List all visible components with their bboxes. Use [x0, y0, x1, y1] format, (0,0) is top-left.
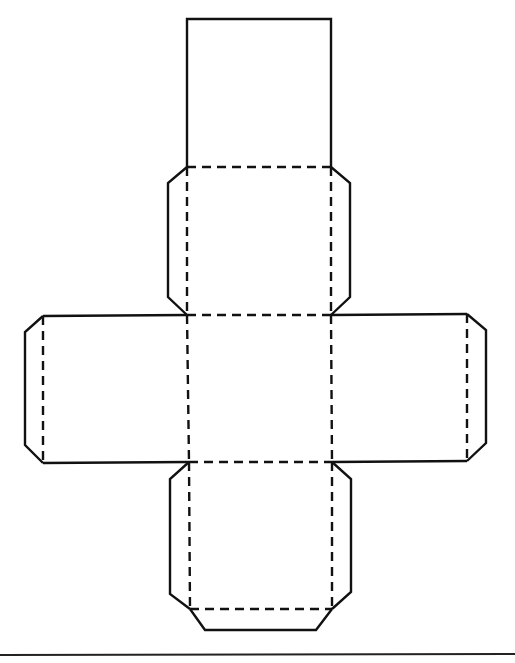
face-upper-middle: [187, 167, 331, 315]
cube-net-svg: [0, 0, 515, 663]
face-top: [187, 19, 331, 167]
page-rule: [0, 654, 515, 655]
tab-left-outer: [25, 316, 43, 463]
tab-bottom-bottom: [190, 609, 332, 630]
face-right: [331, 314, 467, 462]
tab-bottom-left: [170, 462, 190, 609]
tab-upper-middle-left: [168, 167, 187, 315]
face-left: [43, 315, 189, 463]
face-bottom: [189, 462, 332, 609]
tab-bottom-right: [332, 462, 351, 609]
tab-right-outer: [467, 314, 486, 461]
cube-net-diagram: Cube net with glue tabs: [0, 0, 515, 663]
face-center: [187, 315, 332, 462]
tab-upper-middle-right: [331, 167, 350, 315]
